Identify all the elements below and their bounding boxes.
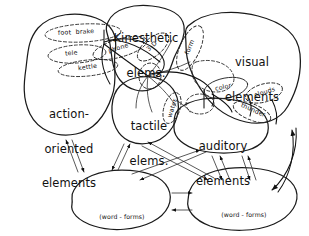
- blob-phonologic: [72, 170, 171, 229]
- bubble-form: [171, 22, 209, 74]
- blob-tactile: [112, 77, 178, 144]
- blob-auditory: [174, 98, 268, 153]
- diagram-svg: [0, 0, 309, 236]
- blob-kinesthetic: [106, 6, 184, 91]
- diagram-canvas: action- oriented elements Kinesthetic el…: [0, 0, 309, 236]
- blob-visual: [186, 12, 301, 123]
- arrows-cross-modal: [66, 128, 296, 192]
- bubble-kettle: [57, 57, 118, 79]
- hub-connectors: [102, 30, 277, 124]
- blob-orthographic: [188, 168, 297, 231]
- bubble-tele: [47, 43, 106, 65]
- bubble-interior-visual: [192, 60, 234, 92]
- blob-action-oriented: [24, 14, 116, 135]
